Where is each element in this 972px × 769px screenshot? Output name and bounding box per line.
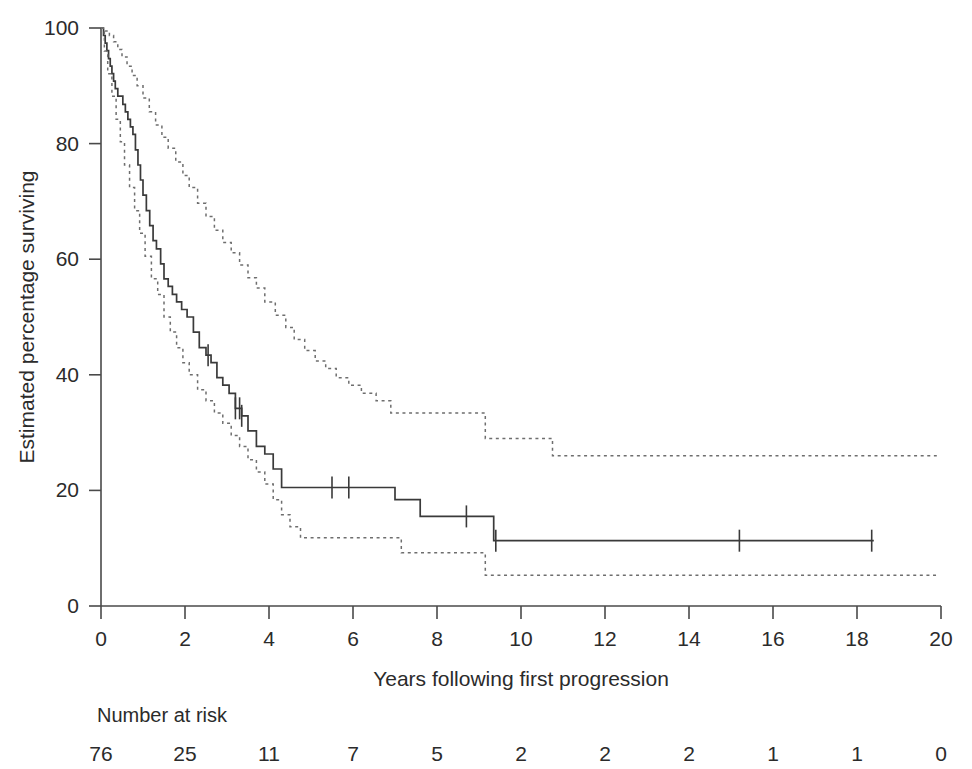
x-tick-label: 0 [95, 627, 107, 650]
x-tick-label: 16 [761, 627, 784, 650]
number-at-risk-table: Number at risk 76251175222110 [89, 704, 947, 765]
y-tick-label: 60 [56, 247, 79, 270]
number-at-risk-values: 76251175222110 [89, 742, 947, 765]
x-axis-group: 02468101214161820 Years following first … [95, 606, 953, 690]
x-tick-label: 4 [263, 627, 275, 650]
censoring-marks-layer [208, 344, 872, 552]
y-axis-title: Estimated percentage surviving [15, 171, 38, 464]
y-tick-label: 100 [44, 16, 79, 39]
number-at-risk-cell: 7 [347, 742, 359, 765]
x-axis-tick-labels: 02468101214161820 [95, 627, 953, 650]
number-at-risk-cell: 76 [89, 742, 112, 765]
kaplan-meier-plot: 020406080100 Estimated percentage surviv… [0, 0, 972, 769]
number-at-risk-cell: 2 [515, 742, 527, 765]
number-at-risk-cell: 1 [851, 742, 863, 765]
x-tick-label: 14 [677, 627, 701, 650]
confidence-interval-curve-1 [101, 28, 937, 456]
number-at-risk-cell: 2 [683, 742, 695, 765]
survival-chart-figure: 020406080100 Estimated percentage surviv… [0, 0, 972, 769]
km-survival-curve [101, 28, 874, 541]
x-tick-label: 20 [929, 627, 952, 650]
survival-curves-layer [101, 28, 937, 575]
number-at-risk-cell: 11 [258, 742, 280, 765]
number-at-risk-label: Number at risk [97, 704, 228, 726]
x-tick-label: 6 [347, 627, 359, 650]
y-axis-tick-labels: 020406080100 [44, 16, 79, 617]
y-axis-ticks [89, 28, 101, 606]
y-tick-label: 0 [67, 594, 79, 617]
number-at-risk-cell: 2 [599, 742, 611, 765]
number-at-risk-cell: 1 [767, 742, 779, 765]
confidence-interval-curve-2 [101, 28, 937, 575]
x-tick-label: 8 [431, 627, 443, 650]
number-at-risk-cell: 0 [935, 742, 947, 765]
x-tick-label: 10 [509, 627, 532, 650]
y-axis-group: 020406080100 Estimated percentage surviv… [15, 16, 101, 617]
x-tick-label: 12 [593, 627, 616, 650]
y-tick-label: 40 [56, 363, 79, 386]
y-tick-label: 80 [56, 132, 79, 155]
x-tick-label: 18 [845, 627, 868, 650]
number-at-risk-cell: 25 [173, 742, 196, 765]
y-tick-label: 20 [56, 478, 79, 501]
x-axis-ticks [101, 606, 941, 619]
x-axis-title: Years following first progression [373, 667, 669, 690]
x-tick-label: 2 [179, 627, 191, 650]
number-at-risk-cell: 5 [431, 742, 443, 765]
